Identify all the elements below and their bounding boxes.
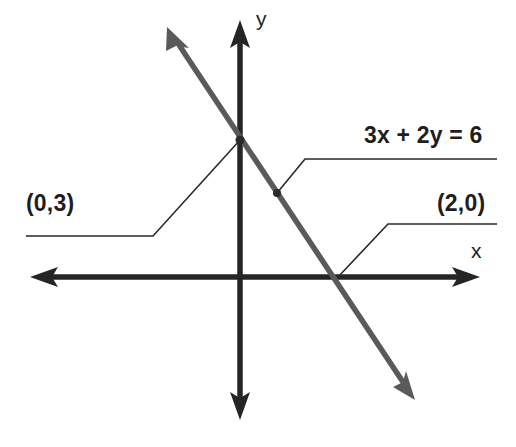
y-intercept-label: (0,3)	[26, 192, 74, 215]
x-axis-label: x	[471, 240, 482, 261]
equation-point-marker	[273, 189, 281, 197]
y-axis-label: y	[256, 8, 267, 29]
equation-line-segment	[179, 45, 403, 382]
equation-line	[166, 27, 415, 400]
x-intercept-label: (2,0)	[437, 192, 485, 215]
equation-label: 3x + 2y = 6	[364, 124, 483, 147]
callout-equation-leader	[277, 159, 497, 193]
callout-y-intercept-leader	[26, 140, 240, 236]
x-axis	[30, 267, 480, 287]
y-axis	[230, 20, 250, 420]
graph-canvas	[0, 0, 516, 447]
graph-figure: (0,3) 3x + 2y = 6 (2,0) y x	[0, 0, 516, 447]
y-intercept-point-marker	[236, 136, 245, 145]
callout-y-intercept	[26, 136, 245, 237]
